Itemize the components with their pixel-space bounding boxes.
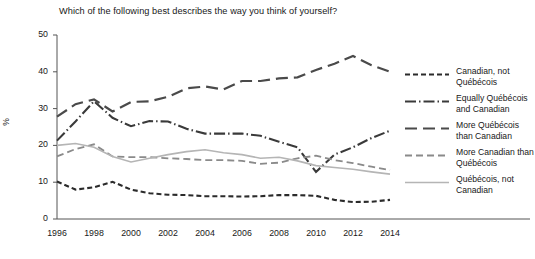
legend-label: Canadian, not Québécois xyxy=(456,66,534,87)
legend-line-swatch xyxy=(405,94,449,107)
series-line-5 xyxy=(57,144,390,175)
legend-label: More Canadian than Québécois xyxy=(456,147,534,168)
series-line-3 xyxy=(57,56,390,117)
chart-figure: Which of the following best describes th… xyxy=(0,0,535,259)
legend-label: More Québécois than Canadian xyxy=(456,120,534,141)
legend-item[interactable]: Canadian, not Québécois xyxy=(405,66,535,87)
legend-line-swatch xyxy=(405,148,449,161)
legend-line-swatch xyxy=(405,67,449,80)
legend-line-swatch xyxy=(405,175,449,188)
legend-item[interactable]: Québécois, not Canadian xyxy=(405,174,535,195)
legend-label: Equally Québécois and Canadian xyxy=(456,93,534,114)
series-line-4 xyxy=(57,144,390,170)
legend-item[interactable]: Equally Québécois and Canadian xyxy=(405,93,535,114)
legend-item[interactable]: More Québécois than Canadian xyxy=(405,120,535,141)
legend-line-swatch xyxy=(405,121,449,134)
y-axis-ticks xyxy=(53,35,57,219)
series-line-1 xyxy=(57,181,390,202)
legend-item[interactable]: More Canadian than Québécois xyxy=(405,147,535,168)
chart-legend: Canadian, not QuébécoisEqually Québécois… xyxy=(405,66,535,201)
legend-label: Québécois, not Canadian xyxy=(456,174,534,195)
